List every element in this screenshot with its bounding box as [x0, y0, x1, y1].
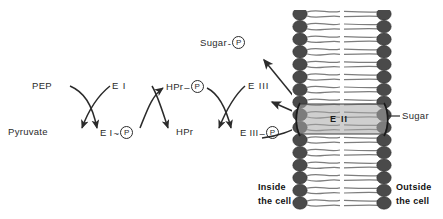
- label-hpr-phosphate-link: –: [183, 82, 191, 93]
- circled-p-icon: P: [120, 126, 133, 139]
- label-sugar-callout: Sugar: [402, 110, 429, 121]
- label-eiii: E III: [248, 80, 269, 91]
- label-hpr: HPr: [176, 126, 193, 137]
- label-hpr-phosphate: HPr–P: [166, 80, 204, 94]
- label-eiii-phosphate-link: –: [258, 128, 266, 139]
- label-outside-line1: Outside: [396, 182, 432, 192]
- label-inside-line1: Inside: [258, 182, 286, 192]
- label-pep: PEP: [32, 80, 52, 91]
- label-ei: E I: [112, 80, 126, 91]
- label-ei-phosphate: E I~P: [100, 126, 133, 140]
- label-pyruvate: Pyruvate: [8, 126, 48, 137]
- reaction-cycle-two-arrows: [140, 86, 168, 128]
- label-eiii-phosphate-name: E III: [240, 127, 258, 138]
- circled-p-icon: P: [191, 80, 204, 93]
- diagram-vector-layer: [0, 0, 443, 219]
- label-ei-phosphate-link: ~: [113, 128, 121, 139]
- label-ei-phosphate-name: E I: [100, 127, 113, 138]
- label-sugar-phosphate-name: Sugar: [200, 37, 227, 48]
- circled-p-icon: P: [266, 126, 279, 139]
- label-inside-line2: the cell: [258, 196, 291, 206]
- label-eii: E II: [330, 114, 348, 124]
- reaction-cycle-three-arrows: [207, 86, 245, 128]
- circled-p-icon: P: [232, 36, 245, 49]
- label-outside-line2: the cell: [396, 196, 429, 206]
- label-eiii-phosphate: E III–P: [240, 126, 279, 140]
- pts-diagram-canvas: PEP Pyruvate E I E I~P HPr–P HPr E III E…: [0, 0, 443, 219]
- label-sugar-phosphate: Sugar-P: [200, 36, 245, 50]
- reaction-cycle-one-arrows: [70, 86, 110, 128]
- label-hpr-phosphate-name: HPr: [166, 81, 183, 92]
